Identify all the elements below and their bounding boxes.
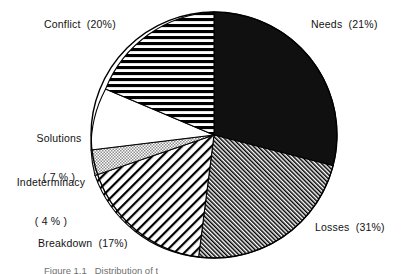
- pie-label-indeterminacy-name: Indeterminacy: [4, 176, 98, 189]
- figure-caption: Figure 1.1 Distribution of t: [44, 265, 158, 274]
- pie-label-breakdown: Breakdown (17%): [38, 237, 128, 250]
- pie-label-indeterminacy-percent: ( 4 % ): [4, 215, 98, 228]
- pie-label-needs: Needs (21%): [311, 18, 378, 31]
- pie-chart-figure: Conflict (20%) Needs (21%) Solutions ( 7…: [0, 0, 406, 274]
- pie-label-solutions-name: Solutions: [20, 132, 98, 145]
- pie-slice-group: [91, 12, 337, 258]
- pie-label-conflict: Conflict (20%): [44, 18, 116, 31]
- pie-label-losses: Losses (31%): [315, 221, 385, 234]
